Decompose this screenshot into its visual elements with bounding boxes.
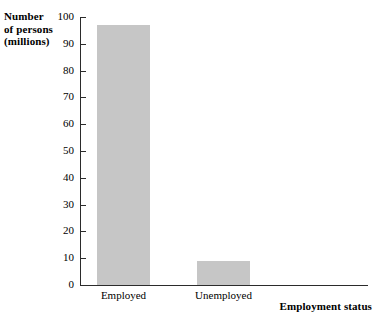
y-axis-title-line-2: of persons bbox=[4, 23, 76, 36]
bar-employed bbox=[97, 25, 150, 285]
y-axis-tick-label: 90 bbox=[34, 38, 74, 49]
y-axis-tick bbox=[81, 258, 86, 259]
bar-chart: Number of persons (millions) 01020304050… bbox=[0, 0, 376, 319]
y-axis-tick bbox=[81, 285, 86, 286]
y-axis-tick-label: 40 bbox=[34, 172, 74, 183]
y-axis-tick bbox=[81, 231, 86, 232]
y-axis-tick-label: 50 bbox=[34, 145, 74, 156]
y-axis-tick-label: 20 bbox=[34, 225, 74, 236]
y-axis-tick-label: 60 bbox=[34, 118, 74, 129]
x-axis-category-label: Unemployed bbox=[164, 289, 284, 301]
y-axis-tick bbox=[81, 124, 86, 125]
y-axis-tick-label: 100 bbox=[34, 11, 74, 22]
y-axis-tick bbox=[81, 205, 86, 206]
x-axis-line bbox=[80, 285, 368, 286]
y-axis-tick bbox=[81, 71, 86, 72]
y-axis-tick bbox=[81, 151, 86, 152]
bar-unemployed bbox=[197, 261, 250, 285]
y-axis-tick bbox=[81, 44, 86, 45]
y-axis-tick-label: 70 bbox=[34, 91, 74, 102]
y-axis-tick bbox=[81, 97, 86, 98]
x-axis-title: Employment status bbox=[280, 300, 372, 312]
y-axis-tick bbox=[81, 178, 86, 179]
y-axis-tick-label: 30 bbox=[34, 199, 74, 210]
y-axis-tick-label: 80 bbox=[34, 65, 74, 76]
y-axis-tick-label: 10 bbox=[34, 252, 74, 263]
y-axis-tick bbox=[81, 17, 86, 18]
